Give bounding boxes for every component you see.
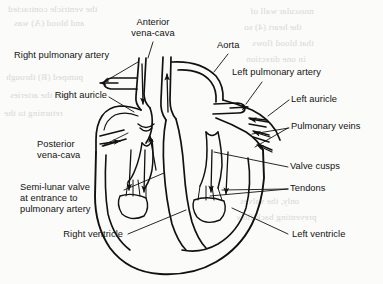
left-ventricle-inner-wall	[182, 158, 250, 251]
leader-anterior-vena-cava	[148, 42, 153, 58]
label-left-pulmonary-artery: Left pulmonary artery	[232, 67, 321, 78]
label-right-auricle: Right auricle	[7, 90, 107, 101]
label-semilunar-valve: Semi-lunar valve at entrance to pulmonar…	[20, 182, 91, 216]
label-anterior-vena-cava-line2: vena-cava	[113, 28, 193, 39]
label-semilunar-valve-line3: pulmonary artery	[20, 204, 91, 215]
label-semilunar-valve-line2: at entrance to	[20, 193, 91, 204]
label-tendons: Tendons	[290, 183, 326, 194]
label-semilunar-valve-line1: Semi-lunar valve	[20, 182, 91, 193]
label-posterior-vena-cava-line1: Posterior	[37, 139, 80, 150]
interventricular-septum	[163, 119, 206, 250]
aortic-arch	[171, 62, 223, 102]
leader-left-auricle	[268, 100, 289, 116]
leader-aorta	[214, 54, 228, 72]
papillary-muscles	[118, 194, 225, 222]
label-anterior-vena-cava: Anterior vena-cava	[113, 17, 193, 39]
label-right-pulmonary-artery: Right pulmonary artery	[14, 50, 109, 61]
leader-right-pulmonary-artery	[104, 62, 138, 82]
label-left-ventricle: Left ventricle	[292, 229, 345, 240]
label-valve-cusps: Valve cusps	[290, 161, 340, 172]
label-posterior-vena-cava-line2: vena-cava	[37, 150, 80, 161]
label-right-ventricle: Right ventricle	[20, 229, 123, 240]
label-left-auricle: Left auricle	[291, 94, 337, 105]
figure-canvas: the ventricle contracted and blood (A) w…	[0, 0, 383, 284]
label-aorta: Aorta	[217, 40, 239, 51]
leader-valve-cusps	[214, 152, 288, 167]
blood-flow-arrows	[100, 64, 272, 194]
leader-right-auricle	[109, 97, 134, 112]
label-posterior-vena-cava: Posterior vena-cava	[37, 139, 80, 161]
leader-left-pulmonary-artery	[246, 82, 262, 104]
leader-right-ventricle	[128, 210, 186, 234]
label-anterior-vena-cava-line1: Anterior	[113, 17, 193, 28]
right-auricle-inner-wall	[104, 113, 138, 130]
label-pulmonary-veins: Pulmonary veins	[291, 121, 360, 132]
